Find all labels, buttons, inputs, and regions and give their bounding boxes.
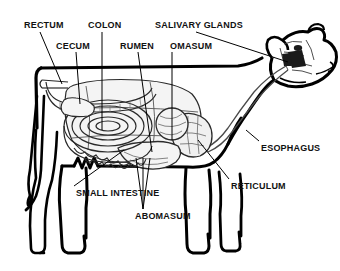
label-colon: COLON <box>88 20 122 30</box>
label-cecum: CECUM <box>56 41 90 51</box>
label-small-intestine: SMALL INTESTINE <box>76 188 159 198</box>
leader-rectum <box>40 32 62 84</box>
cow-head <box>267 24 337 87</box>
label-salivary-glands: SALIVARY GLANDS <box>155 20 243 30</box>
rectum-tube <box>40 80 68 88</box>
diagram-page: RECTUM COLON SALIVARY GLANDS CECUM RUMEN… <box>0 0 340 271</box>
label-omasum: OMASUM <box>170 41 212 51</box>
leader-reticulum <box>198 140 229 179</box>
leader-esophagus <box>246 130 259 141</box>
cow-hind-leg-far <box>30 130 57 253</box>
label-rectum: RECTUM <box>24 20 64 30</box>
label-abomasum: ABOMASUM <box>135 211 191 221</box>
label-esophagus: ESOPHAGUS <box>261 143 320 153</box>
label-reticulum: RETICULUM <box>231 181 286 191</box>
label-rumen: RUMEN <box>120 41 154 51</box>
